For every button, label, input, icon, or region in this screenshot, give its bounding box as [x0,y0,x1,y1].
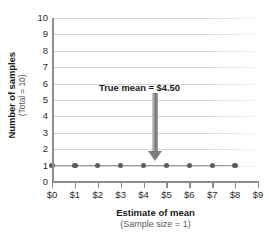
x-tick [121,182,122,188]
x-tick [52,182,53,188]
x-tick [189,182,190,188]
y-tick-label: 10 [32,13,48,23]
gridline [52,18,258,19]
x-tick [235,182,236,188]
arrow-head [148,151,162,161]
plot-area: True mean = $4.50 [52,18,258,182]
chart-figure: Number of samples (Total = 10) 012345678… [0,0,269,239]
gridline [52,51,258,52]
y-axis-tick-labels: 012345678910 [28,18,48,182]
true-mean-arrow-icon [148,93,163,161]
gridline [52,67,258,68]
gridline [52,34,258,35]
x-tick-label: $8 [223,190,247,200]
x-tick [75,182,76,188]
x-tick-label: $2 [86,190,110,200]
data-point [141,163,146,168]
x-tick [144,182,145,188]
data-point [210,163,215,168]
data-point [187,163,192,168]
x-axis-label-main: Estimate of mean [52,207,259,219]
y-axis-label-sub: (Total = 10) [18,52,28,138]
x-tick-label: $7 [200,190,224,200]
x-tick-label: $4 [132,190,156,200]
y-tick-label: 0 [32,177,48,187]
x-tick [212,182,213,188]
data-point [164,163,169,168]
data-point [118,163,123,168]
data-point [95,163,100,168]
data-point [72,163,77,168]
annotation-label: True mean = $4.50 [99,82,180,93]
y-tick-label: 9 [32,29,48,39]
y-tick-label: 5 [32,95,48,105]
y-axis-spine [52,18,54,182]
y-tick-label: 7 [32,62,48,72]
x-tick [98,182,99,188]
x-axis-ticks [52,182,259,189]
arrow-shaft [152,93,158,151]
y-tick-label: 4 [32,111,48,121]
x-tick [258,182,259,188]
x-axis-label-sub: (Sample size = 1) [52,219,259,230]
x-tick-label: $9 [246,190,269,200]
data-point [232,163,237,168]
x-tick-label: $3 [109,190,133,200]
y-tick-label: 8 [32,46,48,56]
y-tick-label: 6 [32,79,48,89]
x-tick-label: $6 [177,190,201,200]
y-tick-label: 2 [32,144,48,154]
y-tick-label: 3 [32,128,48,138]
y-tick-label: 1 [32,161,48,171]
x-tick-label: $5 [154,190,178,200]
x-tick-label: $0 [40,190,64,200]
x-axis-tick-labels: $0$1$2$3$4$5$6$7$8$9 [52,190,259,204]
x-tick-label: $1 [63,190,87,200]
x-tick [166,182,167,188]
x-axis-label: Estimate of mean (Sample size = 1) [52,207,259,230]
